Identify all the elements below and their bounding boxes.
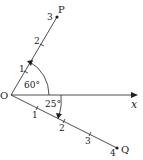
angle-arc-60	[30, 62, 49, 95]
tick-p-2-label: 2	[34, 36, 40, 46]
point-p-label: P	[58, 4, 65, 15]
tick-q-2-label: 2	[59, 123, 65, 133]
tick-q-3-label: 3	[85, 136, 91, 146]
point-q	[115, 146, 118, 149]
tick-p-1-label: 1	[19, 64, 25, 74]
angle-60-label: 60°	[24, 80, 40, 90]
origin-label: O	[0, 90, 8, 101]
tick-q-1-label: 1	[32, 110, 38, 120]
tick-q-4-label: 4	[110, 148, 116, 158]
point-p	[55, 15, 58, 18]
x-axis-label: x	[131, 98, 138, 111]
angle-25-label: 25°	[45, 99, 61, 109]
tick-p-3-label: 3	[47, 12, 53, 22]
polar-diagram: x P 1 2 3 Q 1 2 3 4 O 60° 25°	[0, 0, 143, 160]
point-q-label: Q	[121, 144, 129, 155]
